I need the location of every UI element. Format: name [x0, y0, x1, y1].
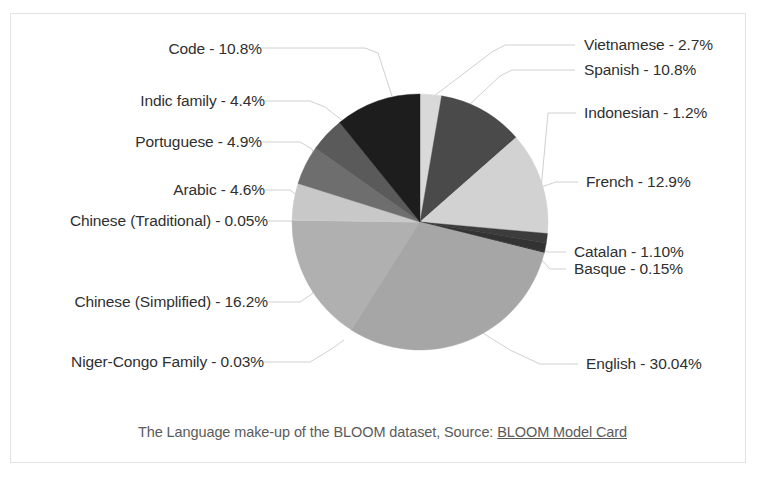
slice-label-english: English - 30.04% — [586, 355, 702, 373]
slice-label-chinese-simplified: Chinese (Simplified) - 16.2% — [14, 293, 268, 311]
slice-label-code: Code - 10.8% — [20, 40, 262, 58]
bloom-model-card-link[interactable]: BLOOM Model Card — [497, 424, 627, 440]
pie-chart-figure: Code - 10.8% Indic family - 4.4% Portugu… — [0, 0, 765, 481]
slice-label-portuguese: Portuguese - 4.9% — [20, 133, 262, 151]
leader-line-code — [262, 48, 392, 96]
slice-label-indonesian: Indonesian - 1.2% — [584, 104, 707, 122]
slice-label-catalan: Catalan - 1.10% — [574, 243, 684, 261]
leader-line-english — [478, 330, 578, 364]
caption-text: The Language make-up of the BLOOM datase… — [138, 424, 497, 440]
slice-label-niger-congo-family: Niger-Congo Family - 0.03% — [14, 353, 264, 371]
slice-label-indic-family: Indic family - 4.4% — [20, 92, 265, 110]
leader-line-niger-congo — [264, 340, 344, 362]
slice-label-vietnamese: Vietnamese - 2.7% — [584, 36, 713, 54]
slice-label-arabic: Arabic - 4.6% — [20, 181, 265, 199]
figure-caption: The Language make-up of the BLOOM datase… — [0, 424, 765, 440]
slice-label-basque: Basque - 0.15% — [574, 260, 683, 278]
slice-label-chinese-traditional: Chinese (Traditional) - 0.05% — [14, 212, 268, 230]
pie-slices-group — [292, 94, 548, 350]
slice-label-spanish: Spanish - 10.8% — [584, 61, 696, 79]
leader-line-spanish — [470, 70, 575, 104]
slice-label-french: French - 12.9% — [586, 173, 691, 191]
